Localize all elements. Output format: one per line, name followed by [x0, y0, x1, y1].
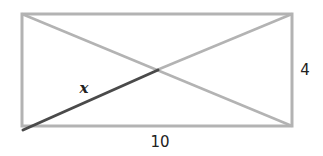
- label-height: 4: [300, 61, 310, 79]
- label-x: x: [79, 79, 90, 97]
- label-width: 10: [150, 133, 169, 151]
- half-diagonal-x-highlight: [23, 70, 158, 130]
- rectangle-diagonals-diagram: x 10 4: [0, 0, 323, 156]
- half-diagonal-upper-right: [157, 14, 292, 70]
